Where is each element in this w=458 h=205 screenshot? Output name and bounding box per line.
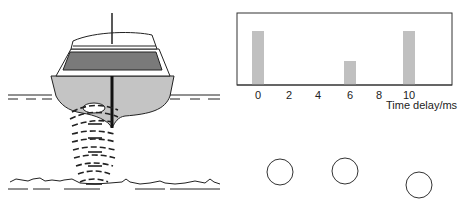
circle-3 bbox=[406, 172, 432, 198]
boat-scene bbox=[0, 0, 230, 205]
bar-10 bbox=[403, 31, 415, 85]
bar-6 bbox=[344, 61, 356, 85]
seabed-icon bbox=[10, 178, 220, 184]
tick-label-6: 6 bbox=[347, 89, 353, 101]
tick-label-0: 0 bbox=[255, 89, 261, 101]
bar-0 bbox=[252, 31, 264, 85]
chart-frame bbox=[237, 13, 452, 85]
cabin-roof-icon bbox=[71, 33, 157, 49]
circle-2 bbox=[332, 158, 358, 184]
transducer-icon bbox=[83, 103, 105, 113]
tick-label-4: 4 bbox=[315, 89, 321, 101]
circle-1 bbox=[267, 159, 293, 185]
tick-label-8: 8 bbox=[376, 89, 382, 101]
window-icon bbox=[63, 52, 162, 70]
tick-label-2: 2 bbox=[286, 89, 292, 101]
x-axis-title: Time delay/ms bbox=[386, 99, 457, 111]
